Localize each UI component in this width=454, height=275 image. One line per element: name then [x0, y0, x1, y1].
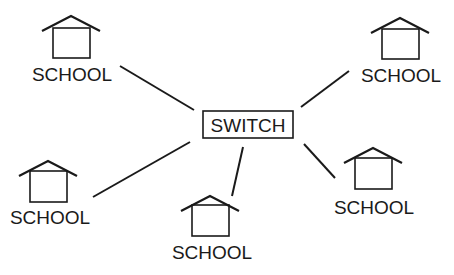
- house-roof-icon: [371, 18, 429, 33]
- house-roof-icon: [19, 161, 77, 176]
- school-bottom-left: SCHOOL: [10, 161, 90, 228]
- school-label: SCHOOL: [334, 197, 414, 218]
- house-roof-icon: [344, 148, 402, 163]
- school-label: SCHOOL: [10, 207, 90, 228]
- house-roof-icon: [181, 196, 239, 211]
- school-label: SCHOOL: [32, 64, 112, 85]
- link-line: [304, 144, 335, 178]
- school-bottom-right: SCHOOL: [334, 148, 414, 218]
- school-top-left: SCHOOL: [32, 16, 112, 85]
- school-label: SCHOOL: [361, 65, 441, 86]
- link-line: [93, 142, 190, 197]
- link-line: [232, 147, 243, 196]
- link-line: [301, 71, 349, 107]
- school-label: SCHOOL: [172, 242, 252, 263]
- house-body-icon: [355, 158, 392, 189]
- house-body-icon: [192, 205, 229, 236]
- school-top-right: SCHOOL: [361, 18, 441, 86]
- school-nodes: SCHOOLSCHOOLSCHOOLSCHOOLSCHOOL: [10, 16, 441, 263]
- house-body-icon: [53, 28, 90, 58]
- network-diagram: SCHOOLSCHOOLSCHOOLSCHOOLSCHOOL SWITCH: [0, 0, 454, 275]
- switch-label: SWITCH: [211, 115, 286, 136]
- house-body-icon: [30, 171, 67, 202]
- switch-hub: SWITCH: [203, 111, 293, 138]
- link-line: [120, 66, 194, 110]
- house-body-icon: [382, 29, 419, 59]
- school-bottom-center: SCHOOL: [172, 196, 252, 263]
